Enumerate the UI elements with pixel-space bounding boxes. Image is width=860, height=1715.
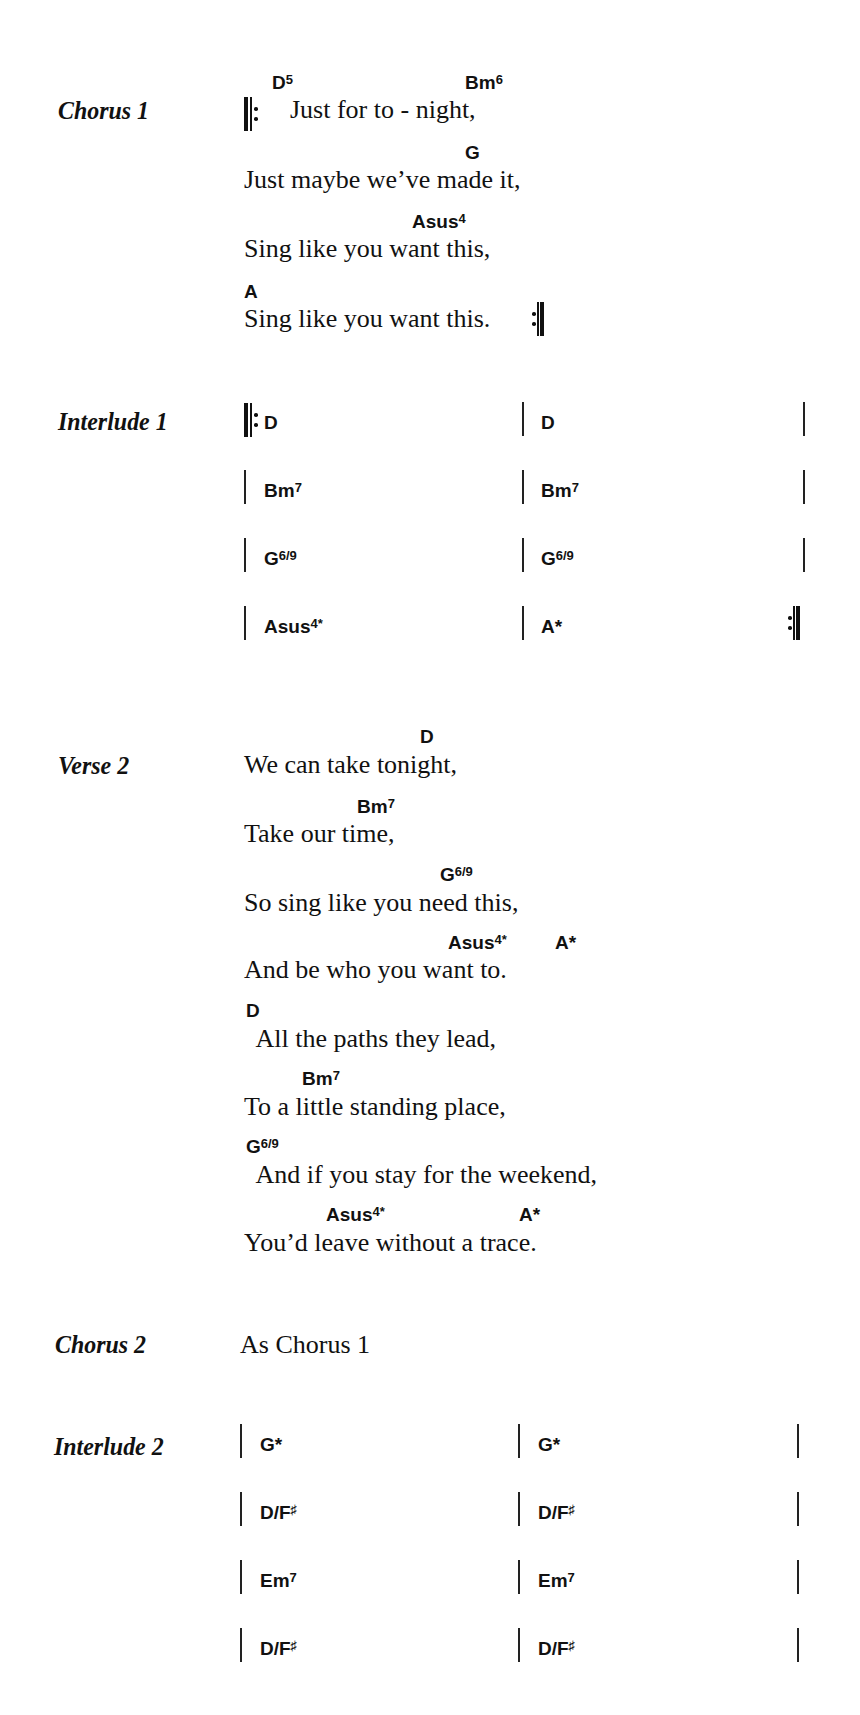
lyric-line: Sing like you want this. [244, 304, 490, 334]
chord: A* [555, 932, 576, 954]
chord: Asus4 [412, 211, 466, 233]
chord: Bm7 [357, 796, 395, 818]
lyric-line: Just for to - night, [290, 95, 476, 125]
barline [797, 1492, 799, 1526]
chord: G* [260, 1434, 282, 1456]
chord: G6/9 [541, 548, 574, 570]
lyric-line: Sing like you want this, [244, 234, 490, 264]
barline [240, 1628, 242, 1662]
lyric-line: So sing like you need this, [244, 888, 518, 918]
section-instruction: As Chorus 1 [240, 1330, 370, 1360]
section-label: Chorus 1 [58, 96, 149, 126]
repeat-end-sign [788, 606, 802, 640]
chord: D [420, 726, 434, 748]
lyric-line: All the paths they lead, [244, 1024, 496, 1054]
chord: A [244, 281, 258, 303]
barline [803, 538, 805, 572]
chord: A* [541, 616, 562, 638]
barline [518, 1628, 520, 1662]
lyric-line: We can take tonight, [244, 750, 457, 780]
lyric-line: Just maybe we’ve made it, [244, 165, 521, 195]
chord: Asus4* [448, 932, 507, 954]
chord: D/F♯ [538, 1502, 575, 1524]
lyric-line: And be who you want to. [244, 955, 507, 985]
chord: D/F♯ [260, 1502, 297, 1524]
repeat-start-sign [244, 97, 258, 131]
barline [522, 402, 524, 436]
repeat-start-sign [244, 403, 258, 437]
chord: G* [538, 1434, 560, 1456]
barline [797, 1628, 799, 1662]
chord: A* [519, 1204, 540, 1226]
repeat-end-sign [532, 302, 546, 336]
chord: D/F♯ [260, 1638, 297, 1660]
chord: D [541, 412, 555, 434]
lyric-line: And if you stay for the weekend, [244, 1160, 597, 1190]
section-label: Chorus 2 [55, 1330, 146, 1360]
chord: Bm7 [264, 480, 302, 502]
chord: G [465, 142, 480, 164]
chord: G6/9 [440, 864, 473, 886]
chord: Em7 [538, 1570, 575, 1592]
barline [518, 1560, 520, 1594]
barline [244, 470, 246, 504]
barline [244, 606, 246, 640]
chord: G6/9 [246, 1136, 279, 1158]
chord: Asus4* [264, 616, 323, 638]
chord: Em7 [260, 1570, 297, 1592]
barline [518, 1492, 520, 1526]
barline [244, 538, 246, 572]
lyric-line: Take our time, [244, 819, 395, 849]
chord: Asus4* [326, 1204, 385, 1226]
barline [240, 1492, 242, 1526]
barline [522, 606, 524, 640]
chord: D [246, 1000, 260, 1022]
lyric-line: You’d leave without a trace. [244, 1228, 537, 1258]
chord: D/F♯ [538, 1638, 575, 1660]
barline [522, 538, 524, 572]
chord: Bm7 [541, 480, 579, 502]
chord: G6/9 [264, 548, 297, 570]
barline [522, 470, 524, 504]
chord: D [264, 412, 278, 434]
barline [797, 1560, 799, 1594]
barline [518, 1424, 520, 1458]
barline [240, 1424, 242, 1458]
barline [240, 1560, 242, 1594]
barline [797, 1424, 799, 1458]
section-label: Interlude 2 [54, 1432, 164, 1462]
chord: Bm6 [465, 72, 503, 94]
barline [803, 402, 805, 436]
barline [803, 470, 805, 504]
lyric-line: To a little standing place, [244, 1092, 506, 1122]
section-label: Interlude 1 [58, 407, 168, 437]
chord: Bm7 [302, 1068, 340, 1090]
chord: D5 [272, 72, 293, 94]
section-label: Verse 2 [58, 751, 129, 781]
